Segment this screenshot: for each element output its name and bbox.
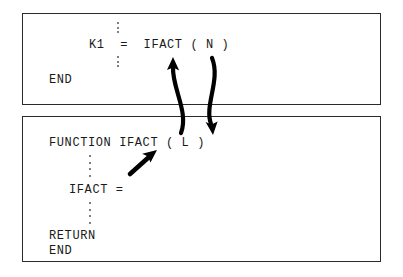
call-statement-line: K1 = IFACT ( N ) bbox=[89, 39, 229, 51]
function-assignment-line: IFACT = bbox=[69, 184, 124, 196]
ellipsis-after-header-icon bbox=[89, 155, 91, 177]
calling-program-box: K1 = IFACT ( N ) END bbox=[22, 13, 381, 105]
function-header-line: FUNCTION IFACT ( L ) bbox=[49, 137, 205, 149]
diagram-canvas: K1 = IFACT ( N ) END FUNCTION IFACT ( L … bbox=[0, 0, 403, 277]
ellipsis-before-return-icon bbox=[89, 202, 91, 224]
return-statement-line: RETURN bbox=[49, 230, 96, 242]
function-subprogram-box: FUNCTION IFACT ( L ) IFACT = RETURN END bbox=[22, 116, 381, 262]
function-end-statement-line: END bbox=[49, 245, 72, 257]
ellipsis-above-call-icon bbox=[117, 22, 119, 33]
caller-end-statement-line: END bbox=[49, 74, 72, 86]
ellipsis-below-call-icon bbox=[117, 56, 119, 67]
